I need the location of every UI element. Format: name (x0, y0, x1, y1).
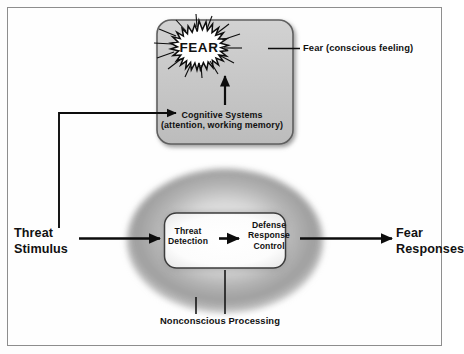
fear-responses-line2: Responses (396, 242, 464, 256)
defense-control-line2: Response (248, 230, 290, 240)
figure-frame-border (7, 7, 442, 346)
threat-stimulus-line1: Threat (14, 226, 53, 240)
nonconscious-processing-annotation: Nonconscious Processing (0, 316, 445, 327)
fear-responses-label: Fear Responses (396, 226, 456, 257)
defense-control-line3: Control (253, 241, 284, 251)
cognitive-systems-subtitle: (attention, working memory) (0, 121, 447, 131)
fear-responses-line1: Fear (396, 226, 423, 240)
threat-detection-line2: Detection (168, 236, 208, 246)
threat-stimulus-label: Threat Stimulus (14, 226, 84, 257)
defense-control-line1: Defense (252, 220, 286, 230)
defense-response-control-stage-label: Defense Response Control (238, 220, 300, 251)
fear-conscious-feeling-annotation: Fear (conscious feeling) (303, 43, 413, 54)
threat-detection-stage-label: Threat Detection (160, 226, 216, 247)
threat-detection-line1: Threat (175, 226, 202, 236)
threat-stimulus-line2: Stimulus (14, 242, 68, 256)
